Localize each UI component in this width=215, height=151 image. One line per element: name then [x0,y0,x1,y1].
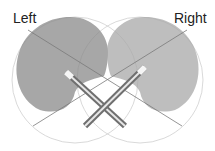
left-channel-label: Left [13,10,36,26]
right-channel-label: Right [174,10,207,26]
